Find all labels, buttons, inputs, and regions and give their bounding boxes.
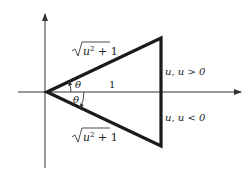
theta-bottom-label: θ xyxy=(73,94,79,105)
side-bottom-label: u, u < 0 xyxy=(165,112,206,123)
side-top-label: u, u > 0 xyxy=(165,66,206,77)
hypotenuse-top-label: u2 + 1 xyxy=(72,42,118,58)
angle-arc-top xyxy=(69,82,71,92)
angle-arc-bottom xyxy=(80,92,84,108)
diagram-canvas: u2 + 1 u2 + 1 θ θ 1 u, u > 0 u, u < 0 xyxy=(0,0,250,176)
svg-text:u2 + 1: u2 + 1 xyxy=(83,131,118,144)
adjacent-label: 1 xyxy=(109,79,115,90)
svg-text:u2 + 1: u2 + 1 xyxy=(83,45,118,58)
hypotenuse-bottom-label: u2 + 1 xyxy=(72,128,118,144)
theta-top-label: θ xyxy=(75,79,81,90)
